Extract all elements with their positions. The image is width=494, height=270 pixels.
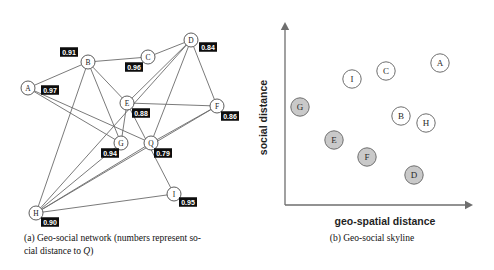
skyline-point-label-B: B (398, 111, 404, 121)
network-edge-B-E (93, 67, 122, 98)
caption-a-line2-suffix: ) (90, 246, 93, 256)
skyline-point-C[interactable]: C (377, 62, 395, 80)
panel-geo-social-skyline: GICAEBHFDgeo-spatial distancesocial dist… (250, 0, 494, 270)
distance-badge-text-Q: 0.79 (156, 150, 170, 157)
network-distance-badge-F: 0.86 (221, 111, 239, 121)
network-node-label-Q: Q (148, 139, 154, 148)
x-axis-arrowhead (465, 201, 473, 209)
network-node-I[interactable]: I (167, 187, 181, 201)
network-distance-badge-C: 0.96 (125, 62, 143, 72)
network-distance-badge-Q: 0.79 (154, 148, 172, 158)
network-distance-badge-I: 0.95 (179, 197, 197, 207)
skyline-axes (281, 22, 473, 209)
network-node-C[interactable]: C (141, 50, 155, 64)
distance-badge-text-F: 0.86 (223, 113, 237, 120)
skyline-plot: GICAEBHFDgeo-spatial distancesocial dist… (250, 0, 494, 232)
network-graph: A0.97B0.91C0.96D0.84E0.88F0.86G0.94Q0.79… (0, 0, 250, 232)
skyline-point-label-C: C (383, 66, 389, 76)
network-node-E[interactable]: E (120, 96, 134, 110)
network-edge-D-H (41, 45, 187, 208)
panel-geo-social-network: A0.97B0.91C0.96D0.84E0.88F0.86G0.94Q0.79… (0, 0, 250, 270)
network-node-D[interactable]: D (184, 33, 198, 47)
network-edges (34, 43, 214, 212)
network-edge-B-C (95, 58, 141, 62)
skyline-point-D[interactable]: D (405, 166, 423, 184)
network-edge-E-F (134, 103, 210, 106)
network-node-label-E: E (125, 99, 130, 108)
distance-badge-text-G: 0.94 (103, 150, 117, 157)
network-node-Q[interactable]: Q (144, 136, 158, 150)
skyline-point-label-G: G (297, 102, 304, 112)
caption-a-line2-prefix: cial distance to (24, 246, 83, 256)
skyline-point-F[interactable]: F (358, 148, 376, 166)
distance-badge-text-D: 0.84 (201, 44, 215, 51)
x-axis-label: geo-spatial distance (335, 215, 436, 227)
skyline-point-label-F: F (364, 152, 369, 162)
skyline-point-G[interactable]: G (291, 98, 309, 116)
network-distance-badge-H: 0.90 (41, 217, 59, 227)
skyline-point-B[interactable]: B (392, 107, 410, 125)
network-nodes: A0.97B0.91C0.96D0.84E0.88F0.86G0.94Q0.79… (21, 33, 239, 227)
distance-badge-text-I: 0.95 (181, 199, 195, 206)
network-distance-badge-A: 0.97 (41, 85, 59, 95)
network-node-label-C: C (145, 53, 150, 62)
network-distance-badge-E: 0.88 (132, 108, 150, 118)
network-node-label-B: B (85, 58, 90, 67)
caption-panel-a: (a) Geo-social network (numbers represen… (24, 232, 224, 258)
caption-panel-b: (b) Geo-social skyline (250, 232, 494, 245)
distance-badge-text-C: 0.96 (127, 64, 141, 71)
distance-badge-text-A: 0.97 (43, 87, 57, 94)
network-edge-D-F (194, 47, 215, 100)
figure-root: A0.97B0.91C0.96D0.84E0.88F0.86G0.94Q0.79… (0, 0, 494, 270)
network-node-B[interactable]: B (81, 55, 95, 69)
caption-a-line1: (a) Geo-social network (numbers represen… (24, 233, 201, 243)
network-node-A[interactable]: A (21, 81, 35, 95)
skyline-point-label-I: I (351, 74, 354, 84)
network-distance-badge-B: 0.91 (60, 47, 78, 57)
caption-b-text: (b) Geo-social skyline (330, 233, 414, 243)
network-node-label-H: H (33, 209, 39, 218)
skyline-point-label-A: A (437, 58, 444, 68)
network-edge-E-G (122, 110, 126, 136)
distance-badge-text-H: 0.90 (43, 219, 57, 226)
network-node-H[interactable]: H (29, 206, 43, 220)
y-axis-arrowhead (281, 22, 289, 30)
distance-badge-text-E: 0.88 (134, 110, 148, 117)
network-node-label-G: G (118, 139, 124, 148)
skyline-point-I[interactable]: I (343, 70, 361, 88)
skyline-point-E[interactable]: E (325, 131, 343, 149)
network-node-label-F: F (215, 102, 219, 111)
skyline-point-label-H: H (423, 118, 430, 128)
network-node-G[interactable]: G (114, 136, 128, 150)
y-axis-label: social distance (257, 80, 269, 155)
skyline-point-H[interactable]: H (417, 114, 435, 132)
network-node-label-D: D (188, 36, 194, 45)
skyline-point-label-E: E (331, 135, 337, 145)
network-distance-badge-D: 0.84 (199, 42, 217, 52)
network-edge-F-H (42, 110, 211, 210)
skyline-points: GICAEBHFD (291, 54, 449, 184)
network-node-label-A: A (25, 84, 31, 93)
network-node-F[interactable]: F (210, 99, 224, 113)
distance-badge-text-B: 0.91 (62, 49, 76, 56)
network-distance-badge-G: 0.94 (101, 148, 119, 158)
skyline-point-A[interactable]: A (431, 54, 449, 72)
network-edge-A-B (34, 65, 81, 85)
skyline-point-label-D: D (411, 170, 418, 180)
